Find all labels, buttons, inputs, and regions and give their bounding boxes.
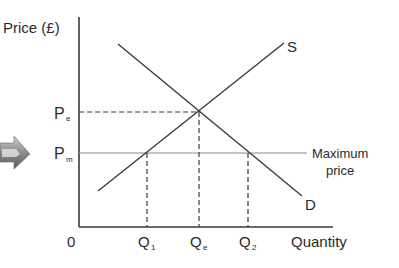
q1-label: Q 1 xyxy=(138,233,156,252)
demand-curve xyxy=(118,44,302,196)
pm-label: P m xyxy=(54,145,73,164)
qe-label: Q e xyxy=(190,233,208,252)
svg-text:1: 1 xyxy=(151,243,156,252)
svg-text:m: m xyxy=(66,155,73,164)
q2-label: Q 2 xyxy=(239,233,257,252)
supply-label: S xyxy=(287,38,297,55)
svg-text:Q: Q xyxy=(138,233,150,250)
svg-text:Q: Q xyxy=(239,233,251,250)
x-axis-label: Quantity xyxy=(291,233,347,250)
svg-text:2: 2 xyxy=(252,243,257,252)
svg-text:e: e xyxy=(203,243,208,252)
supply-demand-diagram: Price (£) Quantity 0 S D Maximum price P… xyxy=(0,0,399,268)
supply-curve xyxy=(98,43,284,191)
max-price-label-line2: price xyxy=(326,163,354,178)
svg-text:P: P xyxy=(54,105,65,122)
demand-label: D xyxy=(305,196,316,213)
pe-label: P e xyxy=(54,105,71,123)
arrow-right-icon xyxy=(0,136,30,169)
svg-text:P: P xyxy=(54,145,65,162)
y-axis-label: Price (£) xyxy=(3,19,60,36)
origin-label: 0 xyxy=(67,233,75,250)
svg-text:e: e xyxy=(66,114,71,123)
svg-text:Q: Q xyxy=(190,233,202,250)
max-price-label-line1: Maximum xyxy=(312,146,368,161)
